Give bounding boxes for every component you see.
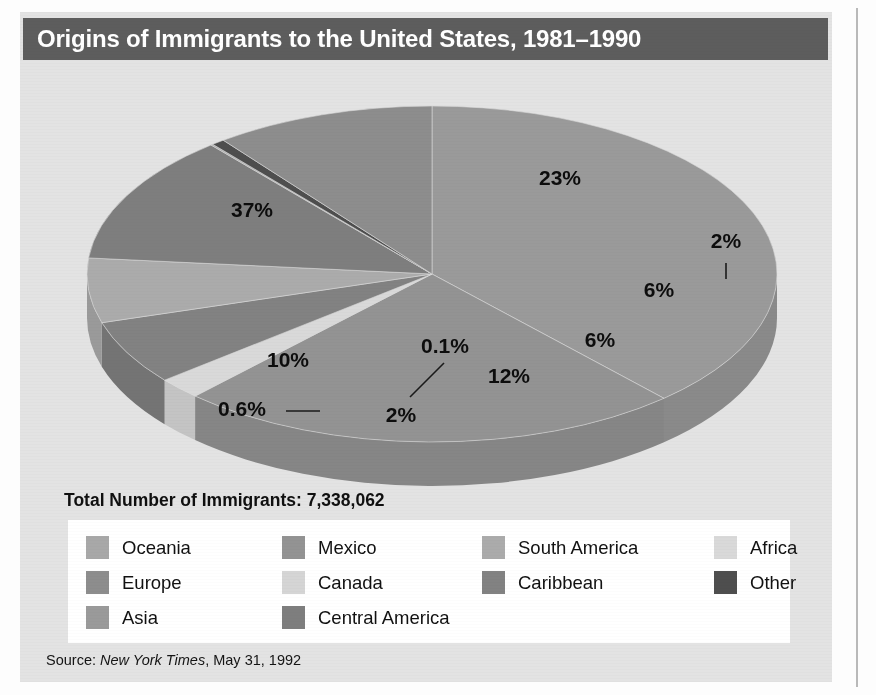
page-canvas: Origins of Immigrants to the United Stat…: [0, 0, 876, 695]
pie-slice-percent-label: 6%: [644, 278, 675, 301]
legend-item: Mexico: [282, 536, 482, 559]
legend-swatch: [282, 536, 305, 559]
pie-slice-percent-label: 2%: [711, 229, 742, 252]
pie-slice-percent-label: 12%: [488, 364, 530, 387]
pie-slice-percent-label: 23%: [539, 166, 581, 189]
legend-swatch: [86, 571, 109, 594]
legend-item-label: Central America: [318, 607, 450, 629]
legend-item: Africa: [714, 536, 797, 559]
legend-item-label: South America: [518, 537, 638, 559]
source-prefix: Source:: [46, 652, 100, 668]
legend-item-label: Mexico: [318, 537, 377, 559]
figure-panel: Origins of Immigrants to the United Stat…: [20, 12, 832, 682]
legend-item-label: Africa: [750, 537, 797, 559]
legend-swatch: [714, 536, 737, 559]
legend-item-label: Caribbean: [518, 572, 603, 594]
source-publication: New York Times: [100, 652, 205, 668]
legend-swatch: [482, 571, 505, 594]
pie-slice-percent-label: 37%: [231, 198, 273, 221]
legend-item: Other: [714, 571, 797, 594]
chart-legend: OceaniaEuropeAsiaMexicoCanadaCentral Ame…: [68, 520, 790, 643]
legend-grid: OceaniaEuropeAsiaMexicoCanadaCentral Ame…: [86, 530, 790, 635]
legend-item: Caribbean: [482, 571, 714, 594]
pie-chart: 37%23%2%6%6%12%0.1%10%0.6%2%: [20, 67, 832, 487]
pie-slice-percent-label: 2%: [386, 403, 417, 426]
legend-item: Central America: [282, 606, 482, 629]
legend-item: South America: [482, 536, 714, 559]
pie-slices: [87, 106, 777, 442]
legend-item-label: Europe: [122, 572, 182, 594]
legend-item: Europe: [86, 571, 282, 594]
source-note: Source: New York Times, May 31, 1992: [46, 652, 301, 668]
legend-item-label: Other: [750, 572, 796, 594]
page-title: Origins of Immigrants to the United Stat…: [23, 25, 641, 53]
legend-swatch: [714, 571, 737, 594]
figure-title-banner: Origins of Immigrants to the United Stat…: [23, 18, 828, 60]
legend-item: Asia: [86, 606, 282, 629]
pie-chart-svg: 37%23%2%6%6%12%0.1%10%0.6%2%: [20, 67, 832, 487]
pie-slice-percent-label: 6%: [585, 328, 616, 351]
total-immigrants-label: Total Number of Immigrants: 7,338,062: [64, 490, 385, 511]
legend-swatch: [282, 606, 305, 629]
legend-item: Canada: [282, 571, 482, 594]
legend-item-label: Oceania: [122, 537, 191, 559]
legend-item-label: Canada: [318, 572, 383, 594]
source-date: , May 31, 1992: [205, 652, 301, 668]
legend-swatch: [86, 536, 109, 559]
pie-slice-percent-label: 10%: [267, 348, 309, 371]
page-margin-rule: [856, 8, 858, 687]
legend-swatch: [86, 606, 109, 629]
pie-slice-percent-label: 0.6%: [218, 397, 266, 420]
legend-swatch: [282, 571, 305, 594]
legend-item-label: Asia: [122, 607, 158, 629]
legend-item: Oceania: [86, 536, 282, 559]
pie-slice-percent-label: 0.1%: [421, 334, 469, 357]
legend-swatch: [482, 536, 505, 559]
